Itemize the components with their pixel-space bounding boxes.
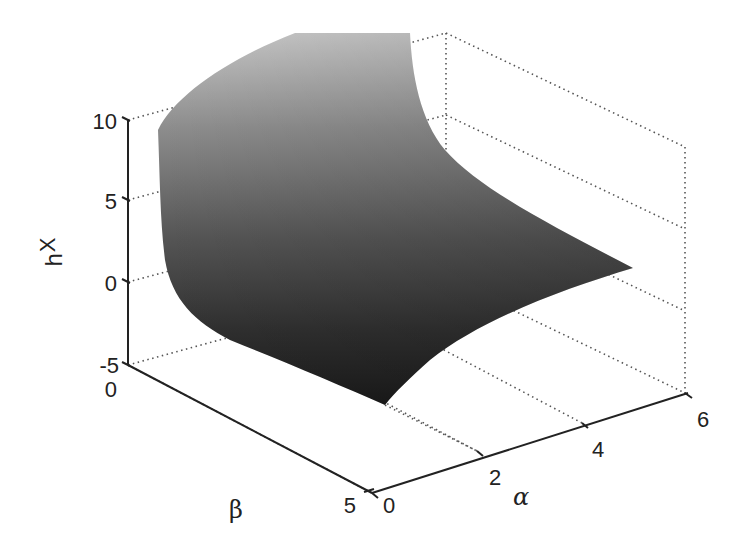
alpha-label: α <box>513 483 529 511</box>
alpha-tick-labels: 0 2 4 6 <box>383 407 709 518</box>
z-tick-labels: 10 5 0 -5 <box>93 109 119 378</box>
surface-plot: 10 5 0 -5 0 5 0 2 4 6 α β hX <box>0 0 746 549</box>
alpha-tick-6: 6 <box>697 407 709 432</box>
alpha-tick-2: 2 <box>489 465 501 490</box>
z-label: hX <box>35 237 67 266</box>
beta-label: β <box>229 496 243 524</box>
surface <box>158 33 633 405</box>
z-tick-0: 0 <box>105 271 117 296</box>
alpha-tick-4: 4 <box>592 437 604 462</box>
z-tick-5: 5 <box>105 189 117 214</box>
alpha-axis <box>372 393 688 493</box>
z-tick-neg5: -5 <box>99 353 119 378</box>
z-tick-10: 10 <box>93 109 117 134</box>
beta-tick-5: 5 <box>344 493 356 518</box>
beta-tick-0: 0 <box>105 377 117 402</box>
beta-axis <box>128 365 372 493</box>
alpha-tick-0: 0 <box>383 493 395 518</box>
